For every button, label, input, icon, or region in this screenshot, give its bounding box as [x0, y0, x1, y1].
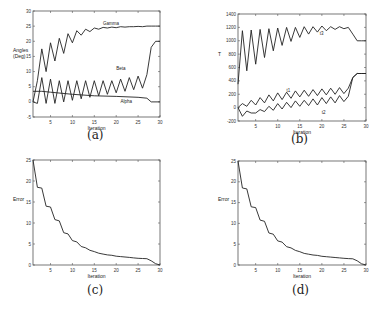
y-tick-label: 25	[26, 158, 32, 163]
y-tick-label: 20	[26, 179, 32, 184]
chart-d: 510152025300510152025IterationError	[218, 159, 369, 280]
caption-a: (a)	[87, 128, 104, 142]
y-tick-label: 800	[228, 52, 236, 57]
series-line-t3	[238, 26, 366, 84]
series-label: t3	[320, 31, 324, 36]
y-tick-label: 30	[26, 9, 32, 14]
x-axis-label: Iteration	[87, 273, 105, 279]
y-axis-label: Error	[218, 196, 229, 202]
y-tick-label: 10	[26, 69, 32, 74]
x-tick-label: 5	[49, 268, 52, 273]
y-tick-label: 15	[231, 200, 237, 205]
y-tick-label: 400	[228, 78, 236, 83]
caption-c: (c)	[87, 283, 103, 297]
x-tick-label: 10	[275, 268, 281, 273]
y-tick-label: -200	[227, 119, 237, 124]
y-tick-label: 1200	[226, 25, 237, 30]
series-line-t2	[238, 74, 366, 117]
series-line-error	[33, 160, 160, 265]
series-label: Alpha	[121, 99, 133, 104]
figure-canvas: 51015202530-5051015202530IterationAngles…	[0, 0, 379, 310]
series-label: Gamma	[103, 21, 120, 26]
x-tick-label: 10	[70, 268, 76, 273]
y-tick-label: 10	[231, 221, 237, 226]
series-line-t1	[238, 74, 366, 108]
y-axis-label: Error	[13, 196, 24, 202]
chart-a: 51015202530-5051015202530IterationAngles…	[13, 9, 163, 132]
series-label: t1	[287, 88, 291, 93]
y-tick-label: -5	[27, 115, 31, 120]
x-tick-label: 5	[49, 120, 52, 125]
series-label: Beta	[116, 66, 126, 71]
caption-d: (d)	[292, 283, 309, 297]
y-tick-label: 0	[28, 99, 31, 104]
y-tick-label: 15	[26, 200, 32, 205]
y-tick-label: 5	[233, 242, 236, 247]
y-axis-label: (Deg)	[13, 53, 26, 59]
x-tick-label: 5	[254, 268, 257, 273]
x-tick-label: 30	[157, 120, 163, 125]
y-tick-label: 0	[233, 263, 236, 268]
x-tick-label: 20	[114, 268, 120, 273]
y-tick-label: 200	[228, 92, 236, 97]
x-tick-label: 25	[136, 120, 142, 125]
caption-b: (b)	[291, 132, 308, 146]
y-tick-label: 5	[28, 84, 31, 89]
y-tick-label: 5	[28, 242, 31, 247]
x-tick-label: 20	[319, 268, 325, 273]
y-tick-label: 1400	[226, 12, 237, 17]
x-tick-label: 25	[136, 268, 142, 273]
x-tick-label: 30	[363, 124, 369, 129]
x-axis-label: Iteration	[293, 273, 311, 279]
y-axis-label: T	[218, 51, 221, 57]
x-tick-label: 10	[70, 120, 76, 125]
plot-frame	[238, 14, 366, 121]
y-tick-label: 25	[231, 159, 237, 164]
series-line-alpha	[33, 91, 160, 102]
series-label: t2	[322, 110, 326, 115]
x-tick-label: 20	[319, 124, 325, 129]
y-tick-label: 20	[231, 179, 237, 184]
chart-c: 510152025300510152025IterationError	[13, 158, 163, 280]
y-tick-label: 15	[26, 54, 32, 59]
x-tick-label: 10	[275, 124, 281, 129]
x-tick-label: 20	[114, 120, 120, 125]
x-tick-label: 30	[363, 268, 369, 273]
y-tick-label: 20	[26, 39, 32, 44]
x-tick-label: 5	[254, 124, 257, 129]
y-tick-label: 25	[26, 24, 32, 29]
series-line-error	[238, 161, 366, 265]
y-tick-label: 10	[26, 221, 32, 226]
x-tick-label: 25	[341, 124, 347, 129]
series-line-gamma	[33, 26, 160, 102]
y-tick-label: 600	[228, 65, 236, 70]
y-tick-label: 0	[233, 105, 236, 110]
x-tick-label: 25	[341, 268, 347, 273]
x-tick-label: 30	[157, 268, 163, 273]
y-tick-label: 1000	[226, 38, 237, 43]
chart-b: 51015202530-2000200400600800100012001400…	[218, 12, 369, 136]
y-tick-label: 0	[28, 263, 31, 268]
